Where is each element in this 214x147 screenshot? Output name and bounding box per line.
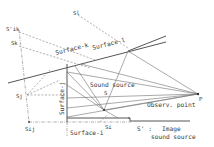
label-p: P: [199, 96, 203, 102]
ray-5: [128, 51, 198, 94]
ray-6: [67, 72, 104, 110]
label-s-l: Sl: [73, 10, 80, 16]
label-s: S: [104, 90, 107, 96]
label-image-marker: S' :: [137, 125, 152, 132]
mirror-line-left: [19, 30, 29, 122]
label-sound-source: Sound source: [90, 81, 135, 88]
label-surface-k: Surface-k: [55, 41, 89, 56]
point-sij: [28, 121, 30, 123]
label-surface-i: Surface-i: [70, 129, 104, 136]
label-s-i: Si: [105, 124, 112, 130]
point-p: [197, 93, 199, 95]
ray-11: [104, 110, 118, 118]
floor-step: [128, 118, 190, 121]
point-s: [103, 109, 105, 111]
label-s-ij: Sij: [25, 126, 35, 133]
dash-sj-2: [27, 80, 60, 95]
label-surface-l: Surface-l: [92, 36, 126, 51]
label-observ-point: Observ. point: [147, 101, 196, 109]
label-s-j: Sj: [16, 93, 23, 100]
label-image-line1: Image: [162, 125, 181, 133]
ray-7: [75, 66, 104, 110]
image-source-diagram: S'ik Sk Sl Sj Sij Si S P Surface-k Surfa…: [0, 0, 214, 147]
label-surface-j: Surface-j: [58, 81, 66, 115]
ray-12: [81, 64, 198, 94]
label-image-line2: sound source: [151, 133, 196, 140]
dash-sj-1: [27, 70, 50, 95]
label-s-ik: S'ik: [6, 26, 20, 32]
label-s-k: Sk: [11, 40, 18, 46]
